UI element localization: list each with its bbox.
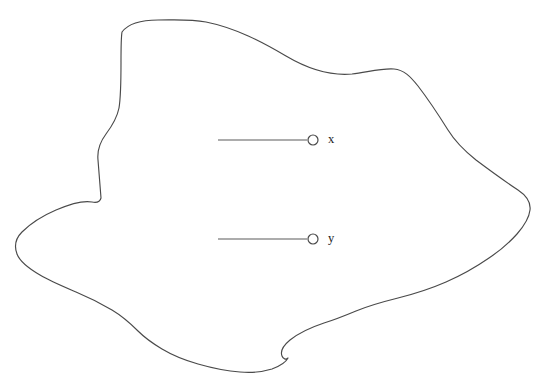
pointer-y-label: y xyxy=(328,232,334,245)
figure-canvas: x y xyxy=(0,0,542,386)
pointer-x-circle xyxy=(308,135,318,145)
pointer-x-label: x xyxy=(328,133,334,146)
pointer-y-circle xyxy=(308,234,318,244)
blob-outline-path xyxy=(16,20,531,373)
figure-drawing xyxy=(0,0,542,386)
